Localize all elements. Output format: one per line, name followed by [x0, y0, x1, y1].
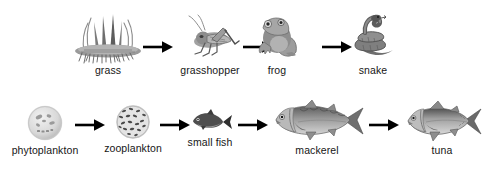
node-frog: frog	[247, 12, 307, 76]
zooplankton-icon	[98, 102, 168, 142]
node-grasshopper: grasshopper	[168, 14, 252, 76]
arrow-mackerel-to-tuna	[369, 118, 400, 132]
node-phytoplankton: phytoplankton	[5, 102, 85, 156]
node-label-phytoplankton: phytoplankton	[5, 144, 85, 156]
mackerel-icon	[266, 98, 368, 144]
aquatic-food-chain: phytoplankton	[0, 90, 484, 176]
node-label-snake: snake	[344, 64, 402, 76]
small-fish-icon	[185, 106, 235, 136]
node-snake: snake	[344, 12, 402, 76]
grasshopper-icon	[168, 14, 252, 64]
node-mackerel: mackerel	[266, 98, 368, 156]
node-grass: grass	[68, 6, 148, 76]
node-zooplankton: zooplankton	[98, 102, 168, 154]
terrestrial-food-chain: grass	[0, 0, 484, 90]
node-small-fish: small fish	[185, 106, 235, 148]
node-label-mackerel: mackerel	[266, 144, 368, 156]
node-tuna: tuna	[400, 100, 484, 156]
node-label-tuna: tuna	[400, 144, 484, 156]
node-label-small-fish: small fish	[185, 136, 235, 148]
frog-icon	[247, 12, 307, 64]
tuna-icon	[400, 100, 484, 144]
node-label-frog: frog	[247, 64, 307, 76]
grass-tuft-icon	[68, 6, 148, 64]
food-chain-diagram: grass	[0, 0, 484, 176]
node-label-grass: grass	[68, 64, 148, 76]
phytoplankton-icon	[5, 102, 85, 144]
node-label-grasshopper: grasshopper	[168, 64, 252, 76]
node-label-zooplankton: zooplankton	[98, 142, 168, 154]
arrow-small-fish-to-mackerel	[238, 118, 269, 132]
snake-icon	[344, 12, 402, 64]
